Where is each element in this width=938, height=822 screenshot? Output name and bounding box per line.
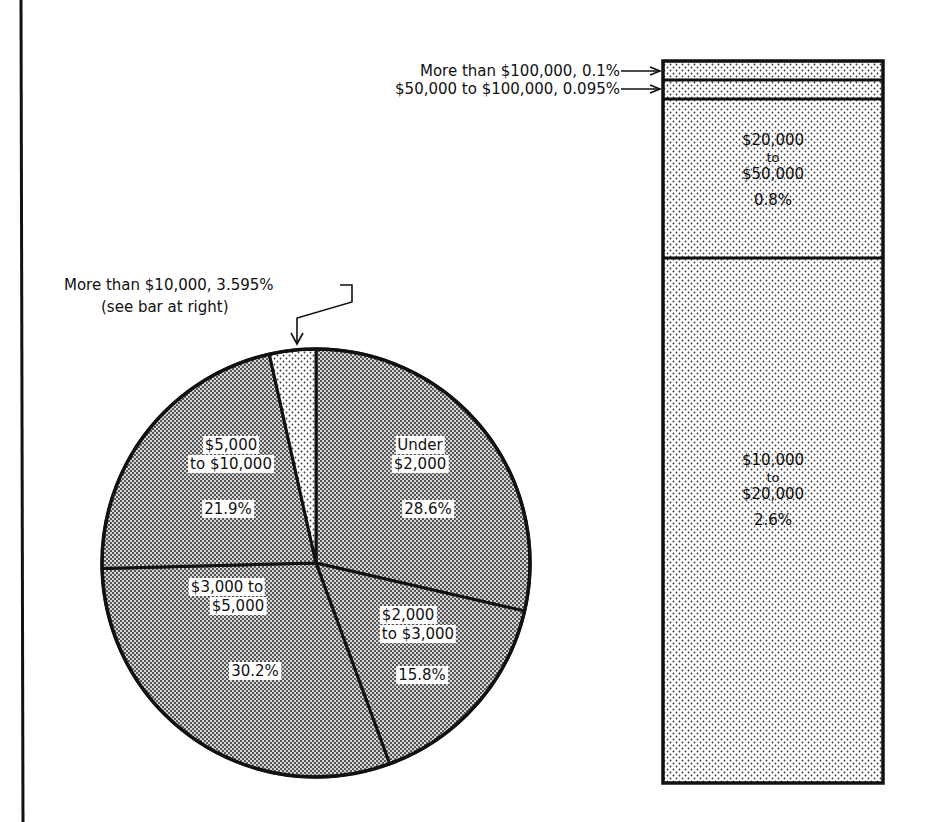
pie-chart	[102, 349, 530, 777]
bar-callout-over-100000: More than $100,000, 0.1%	[420, 62, 620, 80]
bar-seg-50000-100000	[664, 80, 882, 99]
pie-label-line: $3,000 to	[189, 578, 265, 596]
pie-label-line: Under	[395, 436, 444, 454]
pie-label-line: to $3,000	[380, 625, 456, 643]
pie-value-under-2000: 28.6%	[402, 500, 454, 518]
bar-seg-over-100000	[664, 62, 882, 80]
left-rule	[21, 0, 23, 822]
bar-label-line: to	[742, 149, 804, 166]
pie-value-label: 30.2%	[229, 662, 281, 680]
pie-value-label: 21.9%	[202, 500, 254, 518]
pie-callout-line2: (see bar at right)	[101, 298, 228, 316]
pie-value-5000-10000: 21.9%	[202, 500, 254, 518]
bar-label-line: $10,000	[742, 452, 804, 469]
bar-label-10000-20000: $10,000 to $20,000 2.6%	[742, 452, 804, 529]
pie-label-3000-5000: $3,000 to $5,000	[188, 578, 267, 616]
pie-label-line: $2,000	[380, 606, 437, 624]
pie-value-label: 28.6%	[402, 500, 454, 518]
bar-callout-arrows	[621, 67, 660, 93]
sliver-callout-arrow	[291, 285, 352, 344]
pie-label-line: to $10,000	[188, 455, 274, 473]
bar-value-label: 2.6%	[742, 512, 804, 529]
pie-label-line: $5,000	[210, 597, 267, 615]
pie-label-under-2000: Under $2,000	[392, 436, 449, 474]
bar-label-line: $20,000	[742, 486, 804, 503]
bar-callout-50000-100000: $50,000 to $100,000, 0.095%	[395, 80, 620, 98]
pie-value-2000-3000: 15.8%	[396, 666, 448, 684]
pie-value-3000-5000: 30.2%	[229, 662, 281, 680]
pie-label-line: $5,000	[203, 436, 260, 454]
pie-label-line: $2,000	[392, 455, 449, 473]
bar-label-line: $20,000	[742, 132, 804, 149]
pie-callout-line1: More than $10,000, 3.595%	[64, 276, 274, 294]
chart-canvas	[0, 0, 938, 822]
bar-label-line: $50,000	[742, 166, 804, 183]
bar-value-label: 0.8%	[742, 192, 804, 209]
pie-value-label: 15.8%	[396, 666, 448, 684]
bar-label-20000-50000: $20,000 to $50,000 0.8%	[742, 132, 804, 209]
bar-label-line: to	[742, 469, 804, 486]
pie-label-5000-10000: $5,000 to $10,000	[188, 436, 274, 474]
pie-label-2000-3000: $2,000 to $3,000	[380, 606, 456, 644]
